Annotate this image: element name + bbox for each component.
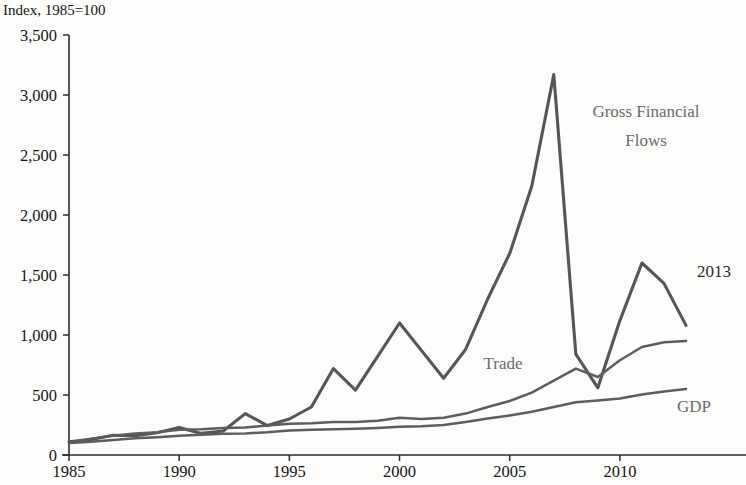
series-group	[69, 75, 686, 443]
series-line-gdp	[69, 389, 686, 443]
x-axis-tick-label: 1995	[273, 462, 306, 481]
annotation-trade: Trade	[483, 354, 522, 373]
y-axis-tick-label: 500	[32, 386, 57, 405]
line-chart-plot: 05001,0001,5002,0002,5003,0003,500 19851…	[0, 0, 746, 485]
annotation-gross-financial-flows-line1: Gross Financial	[592, 102, 699, 121]
annotation-gdp: GDP	[677, 397, 711, 416]
y-axis-tick-label: 3,000	[20, 86, 57, 105]
chart-page: and Financial Flows, 1985–2013 Index, 19…	[0, 0, 746, 485]
annotation-gross-financial-flows-line2: Flows	[625, 131, 667, 150]
x-axis-tick-label: 2005	[493, 462, 526, 481]
y-axis-tick-group: 05001,0001,5002,0002,5003,0003,500	[20, 26, 69, 465]
y-axis-tick-label: 2,500	[20, 146, 57, 165]
y-axis-tick-label: 1,500	[20, 266, 57, 285]
annotation-end-year: 2013	[697, 262, 731, 281]
x-axis-tick-label: 2000	[383, 462, 416, 481]
y-axis-tick-label: 2,000	[20, 206, 57, 225]
series-line-gross-financial-flows	[69, 75, 686, 442]
y-axis-tick-label: 3,500	[20, 26, 57, 45]
x-axis-tick-label: 1990	[163, 462, 196, 481]
x-axis-tick-label: 2010	[603, 462, 636, 481]
x-axis-tick-group: 198519901995200020052010	[53, 455, 637, 481]
x-axis-tick-label: 1985	[53, 462, 86, 481]
y-axis-tick-label: 1,000	[20, 326, 57, 345]
